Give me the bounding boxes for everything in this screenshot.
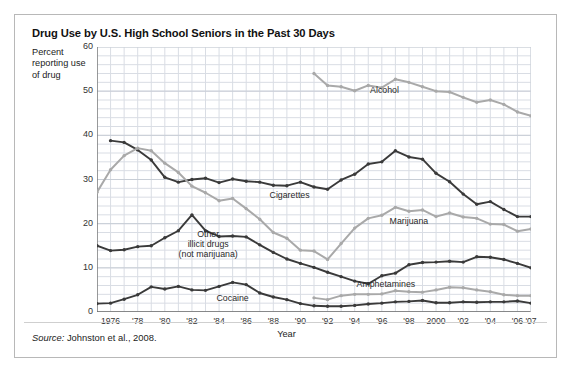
data-point bbox=[258, 218, 261, 221]
data-point bbox=[421, 85, 424, 88]
data-point bbox=[353, 173, 356, 176]
data-point bbox=[136, 293, 139, 296]
series-label-marijuana: Marijuana bbox=[390, 216, 429, 226]
series-label-amphetamines: Amphetamines bbox=[357, 279, 416, 289]
data-point bbox=[339, 178, 342, 181]
data-point bbox=[204, 176, 207, 179]
data-point bbox=[461, 96, 464, 99]
data-point bbox=[163, 236, 166, 239]
data-point bbox=[190, 288, 193, 291]
data-point bbox=[461, 286, 464, 289]
data-point bbox=[122, 248, 125, 251]
data-point bbox=[109, 168, 112, 171]
series-label-cocaine: Cocaine bbox=[216, 293, 248, 303]
x-tick-label: 2000 bbox=[427, 316, 446, 326]
x-tick-label: '96 bbox=[376, 316, 387, 326]
data-point bbox=[407, 300, 410, 303]
data-point bbox=[353, 89, 356, 92]
x-tick-label: '98 bbox=[403, 316, 414, 326]
series-label-cigarettes: Cigarettes bbox=[270, 190, 310, 200]
data-point bbox=[434, 89, 437, 92]
data-point bbox=[231, 177, 234, 180]
data-point bbox=[272, 251, 275, 254]
data-point bbox=[367, 293, 370, 296]
data-point bbox=[489, 290, 492, 293]
data-point bbox=[285, 237, 288, 240]
y-tick-label: 50 bbox=[67, 85, 93, 95]
y-axis-tick-labels: 0102030405060 bbox=[65, 47, 93, 312]
data-point bbox=[502, 293, 505, 296]
x-tick-label: '04 bbox=[485, 316, 496, 326]
data-point bbox=[339, 85, 342, 88]
data-point bbox=[177, 285, 180, 288]
data-point bbox=[339, 294, 342, 297]
data-point bbox=[312, 72, 315, 75]
data-point bbox=[516, 262, 519, 265]
data-point bbox=[244, 180, 247, 183]
data-point bbox=[502, 300, 505, 303]
data-point bbox=[204, 191, 207, 194]
data-point bbox=[312, 266, 315, 269]
x-tick-label: '78 bbox=[132, 316, 143, 326]
data-point bbox=[502, 223, 505, 226]
data-point bbox=[394, 300, 397, 303]
data-point bbox=[285, 298, 288, 301]
data-point bbox=[122, 297, 125, 300]
data-point bbox=[421, 290, 424, 293]
data-point bbox=[353, 226, 356, 229]
data-point bbox=[434, 301, 437, 304]
data-point bbox=[326, 305, 329, 308]
y-tick-label: 40 bbox=[67, 129, 93, 139]
data-point bbox=[299, 180, 302, 183]
data-point bbox=[394, 78, 397, 81]
data-point bbox=[448, 180, 451, 183]
x-tick-label: 1976 bbox=[101, 316, 120, 326]
data-point bbox=[353, 293, 356, 296]
data-point bbox=[380, 274, 383, 277]
data-point bbox=[380, 292, 383, 295]
data-point bbox=[231, 281, 234, 284]
data-point bbox=[204, 289, 207, 292]
data-point bbox=[163, 161, 166, 164]
data-point bbox=[150, 149, 153, 152]
data-point bbox=[380, 160, 383, 163]
data-point bbox=[407, 81, 410, 84]
data-point bbox=[231, 197, 234, 200]
data-point bbox=[461, 260, 464, 263]
data-point bbox=[97, 302, 99, 305]
data-point bbox=[502, 258, 505, 261]
data-point bbox=[475, 288, 478, 291]
data-point bbox=[217, 285, 220, 288]
source-label: Source: bbox=[32, 332, 64, 343]
data-point bbox=[326, 84, 329, 87]
data-point bbox=[177, 180, 180, 183]
footer-divider bbox=[24, 322, 547, 323]
data-point bbox=[448, 286, 451, 289]
data-point bbox=[380, 214, 383, 217]
data-point bbox=[190, 178, 193, 181]
data-point bbox=[190, 184, 193, 187]
x-tick-label: '88 bbox=[268, 316, 279, 326]
y-tick-label: 10 bbox=[67, 262, 93, 272]
data-point bbox=[489, 200, 492, 203]
data-point bbox=[367, 302, 370, 305]
data-point bbox=[475, 203, 478, 206]
data-point bbox=[394, 289, 397, 292]
data-point bbox=[394, 206, 397, 209]
data-point bbox=[285, 257, 288, 260]
data-point bbox=[448, 211, 451, 214]
plot-area: CigarettesAlcoholMarijuanaOtherillicit d… bbox=[97, 47, 531, 312]
data-point bbox=[217, 181, 220, 184]
data-point bbox=[109, 249, 112, 252]
data-point bbox=[448, 90, 451, 93]
x-tick-label: '80 bbox=[159, 316, 170, 326]
data-point bbox=[312, 296, 315, 299]
series-line-cigarettes bbox=[111, 141, 531, 217]
x-tick-label: '92 bbox=[322, 316, 333, 326]
data-point bbox=[150, 244, 153, 247]
data-point bbox=[244, 235, 247, 238]
y-tick-label: 0 bbox=[67, 306, 93, 316]
data-point bbox=[516, 229, 519, 232]
data-point bbox=[272, 295, 275, 298]
data-point bbox=[367, 217, 370, 220]
